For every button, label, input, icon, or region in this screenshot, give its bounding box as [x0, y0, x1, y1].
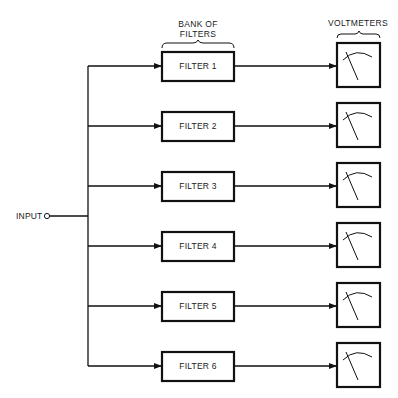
header-line-1: BANK OF	[178, 19, 217, 29]
filter-bank-diagram: BANK OF FILTERS VOLTMETERS INPUT FILTER …	[0, 0, 398, 398]
filter-label-1: FILTER 1	[179, 61, 216, 71]
input-label: INPUT	[16, 211, 43, 221]
voltmeters-label: VOLTMETERS	[328, 18, 388, 28]
header-line-2: FILTERS	[180, 29, 216, 39]
voltmeter-5	[337, 283, 380, 327]
voltmeter-6	[337, 343, 380, 387]
filters-brace-icon	[162, 40, 234, 48]
filter-row-6: FILTER 6	[88, 343, 380, 387]
input-terminal: INPUT	[16, 211, 88, 221]
filter-label-5: FILTER 5	[179, 301, 216, 311]
filter-row-5: FILTER 5	[88, 283, 380, 327]
bank-of-filters-header: BANK OF FILTERS	[162, 19, 234, 48]
filter-label-4: FILTER 4	[179, 241, 216, 251]
voltmeter-2	[337, 103, 380, 147]
voltmeter-3	[337, 163, 380, 207]
filter-row-1: FILTER 1	[88, 43, 380, 87]
filter-row-3: FILTER 3	[88, 163, 380, 207]
input-terminal-icon	[44, 213, 49, 218]
filter-label-3: FILTER 3	[179, 181, 216, 191]
voltmeter-4	[337, 223, 380, 267]
filter-label-2: FILTER 2	[179, 121, 216, 131]
filter-label-6: FILTER 6	[179, 361, 216, 371]
voltmeters-brace-icon	[337, 31, 380, 38]
voltmeter-1	[337, 43, 380, 87]
voltmeters-header: VOLTMETERS	[328, 18, 388, 38]
filter-row-4: FILTER 4	[88, 223, 380, 267]
filter-row-2: FILTER 2	[88, 103, 380, 147]
